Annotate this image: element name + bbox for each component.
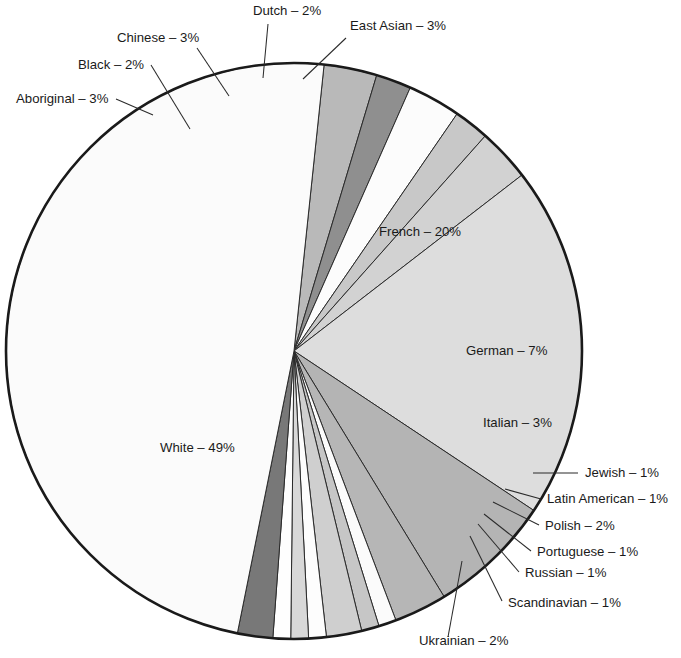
- pie-chart-figure: Aboriginal – 3%Black – 2%Chinese – 3%Dut…: [0, 0, 681, 658]
- slice-label-dutch: Dutch – 2%: [253, 3, 321, 18]
- slice-label-portuguese: Portuguese – 1%: [537, 544, 638, 559]
- slice-label-scandinavian: Scandinavian – 1%: [508, 595, 621, 610]
- slice-label-aboriginal: Aboriginal – 3%: [16, 91, 109, 106]
- slice-label-jewish: Jewish – 1%: [585, 465, 659, 480]
- slice-label-french: French – 20%: [379, 224, 461, 239]
- slice-label-polish: Polish – 2%: [545, 518, 615, 533]
- slice-label-east-asian: East Asian – 3%: [350, 18, 446, 33]
- pie-chart-canvas: Aboriginal – 3%Black – 2%Chinese – 3%Dut…: [0, 0, 681, 658]
- slice-label-italian: Italian – 3%: [483, 415, 552, 430]
- slice-label-white: White – 49%: [160, 440, 235, 455]
- slice-label-chinese: Chinese – 3%: [117, 30, 199, 45]
- slice-label-latin-american: Latin American – 1%: [547, 491, 668, 506]
- slice-label-german: German – 7%: [466, 343, 548, 358]
- slice-label-black: Black – 2%: [78, 57, 144, 72]
- slice-label-ukrainian: Ukrainian – 2%: [419, 633, 509, 648]
- slice-label-russian: Russian – 1%: [525, 565, 607, 580]
